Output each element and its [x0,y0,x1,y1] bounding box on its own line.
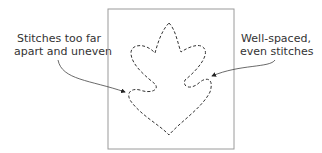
arrow-to-uneven [58,60,125,92]
stitch-diagram [0,0,322,153]
fabric-frame [108,9,234,149]
arrow-to-even [212,60,275,76]
leaf-stitch-outline [129,23,212,135]
